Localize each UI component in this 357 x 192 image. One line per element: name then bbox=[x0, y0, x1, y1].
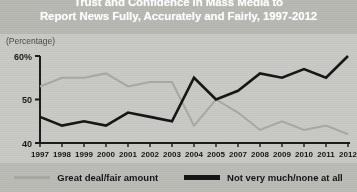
legend-item[interactable]: Great deal/fair amount bbox=[14, 172, 158, 183]
chart-legend: Great deal/fair amountNot very much/none… bbox=[0, 163, 357, 192]
y-axis-tick-label: 40 bbox=[22, 139, 32, 149]
x-axis-tick-label: 1997 bbox=[31, 150, 49, 159]
x-axis-tick-label: 2012 bbox=[339, 150, 357, 159]
page-title-line-2: Report News Fully, Accurately and Fairly… bbox=[0, 10, 357, 22]
chart-series-line bbox=[40, 73, 348, 134]
x-axis-tick-label: 2003 bbox=[163, 150, 181, 159]
x-axis-tick-label: 2000 bbox=[97, 150, 115, 159]
legend-item-label: Not very much/none at all bbox=[227, 172, 343, 183]
x-axis-tick-label: 2008 bbox=[251, 150, 269, 159]
x-axis-tick-label: 2011 bbox=[317, 150, 335, 159]
legend-item[interactable]: Not very much/none at all bbox=[184, 172, 343, 183]
chart-series-line bbox=[40, 56, 348, 126]
x-axis-tick-label: 1998 bbox=[53, 150, 71, 159]
y-axis-tick-label: 60% bbox=[14, 52, 32, 62]
y-axis-tick-label: 50 bbox=[22, 95, 32, 105]
x-axis-tick-label: 2002 bbox=[141, 150, 159, 159]
line-chart: 405060%199719981999200020012002200320042… bbox=[0, 34, 357, 163]
legend-swatch-icon bbox=[14, 176, 50, 179]
legend-swatch-icon bbox=[184, 175, 220, 180]
x-axis-tick-label: 2007 bbox=[229, 150, 247, 159]
chart-plot-area: (Percentage) 405060%19971998199920002001… bbox=[0, 34, 357, 163]
x-axis-tick-label: 2004 bbox=[185, 150, 203, 159]
x-axis-tick-label: 2009 bbox=[273, 150, 291, 159]
legend-item-label: Great deal/fair amount bbox=[57, 172, 158, 183]
chart-legend-band: Great deal/fair amountNot very much/none… bbox=[0, 163, 357, 192]
x-axis-tick-label: 1999 bbox=[75, 150, 93, 159]
chart-title-band: Trust and Confidence in Mass Media to Re… bbox=[0, 0, 357, 34]
x-axis-tick-label: 2001 bbox=[119, 150, 137, 159]
x-axis-tick-label: 2005 bbox=[207, 150, 225, 159]
chart-screenshot: Trust and Confidence in Mass Media to Re… bbox=[0, 0, 357, 192]
page-title-line-1: Trust and Confidence in Mass Media to bbox=[0, 0, 357, 8]
x-axis-tick-label: 2010 bbox=[295, 150, 313, 159]
